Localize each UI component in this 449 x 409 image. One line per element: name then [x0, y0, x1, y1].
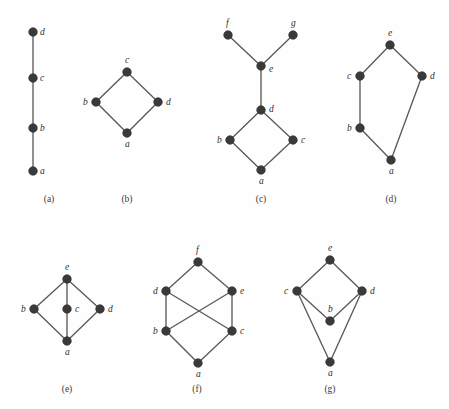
graph-node-c-a: [257, 166, 266, 175]
graph-node-a-d: [29, 28, 38, 37]
graph-edge-c-ab: [230, 140, 261, 170]
vertex-label-c-b: b: [217, 135, 222, 145]
vertex-label-d-b: b: [347, 123, 352, 133]
graph-node-a-c: [29, 74, 38, 83]
graph-node-c-c: [289, 136, 298, 145]
graph-edge-f-ac: [198, 331, 232, 363]
vertex-label-f-d: d: [153, 286, 158, 296]
graph-node-e-d: [96, 305, 105, 314]
graph-node-c-g: [289, 31, 298, 40]
edges-layer: [33, 32, 422, 363]
vertex-label-g-a: a: [328, 368, 333, 378]
graph-node-g-c: [293, 287, 302, 296]
graph-edge-c-bd: [230, 110, 261, 140]
vertex-label-a-a: a: [40, 166, 45, 176]
graph-node-f-d: [162, 287, 171, 296]
graph-edge-g-bd: [330, 291, 362, 321]
graph-node-c-d: [257, 106, 266, 115]
captions-layer: (a)(b)(c)(d)(e)(f)(g): [44, 194, 397, 395]
graph-edge-b-dc: [127, 72, 158, 102]
vertex-label-g-e: e: [328, 243, 332, 253]
graph-edge-f-ef: [198, 262, 232, 291]
graph-edge-d-ab: [360, 128, 391, 160]
graph-node-g-d: [358, 287, 367, 296]
vertex-label-b-a: a: [125, 139, 130, 149]
graph-node-d-a: [387, 156, 396, 165]
graph-node-d-d: [418, 72, 427, 81]
hasse-diagram-figure: dcbacbdafgedbcaecdbaebcdafdebcaecdba (a)…: [0, 0, 449, 409]
graph-node-f-c: [228, 327, 237, 336]
graph-node-b-b: [92, 98, 101, 107]
graph-edge-f-df: [166, 262, 198, 291]
vertex-label-c-e: e: [269, 64, 273, 74]
vertex-label-d-c: c: [347, 71, 352, 81]
panel-caption-a: (a): [44, 194, 55, 205]
vertex-label-b-b: b: [83, 97, 88, 107]
graph-edge-d-de: [390, 45, 422, 76]
vertex-label-a-c: c: [40, 73, 45, 83]
graph-node-b-a: [123, 129, 132, 138]
vertex-label-d-a: a: [389, 166, 394, 176]
graph-node-d-e: [386, 41, 395, 50]
vertex-label-g-b: b: [328, 304, 333, 314]
vertex-label-c-a: a: [259, 176, 264, 186]
vertex-label-f-f: f: [196, 245, 200, 255]
graph-edge-e-ab: [34, 309, 67, 341]
vertex-label-e-b: b: [21, 304, 26, 314]
panel-caption-e: (e): [62, 384, 73, 395]
vertex-label-e-a: a: [65, 347, 70, 357]
graph-node-f-f: [194, 258, 203, 267]
graph-edge-g-bc: [297, 291, 330, 321]
graph-edge-e-be: [34, 279, 67, 309]
vertex-label-b-c: c: [125, 55, 130, 65]
graph-edge-g-ce: [297, 260, 330, 291]
graph-edge-d-ce: [360, 45, 390, 76]
vertex-label-c-d: d: [269, 104, 274, 114]
vertex-label-a-d: d: [40, 27, 45, 37]
graph-node-g-e: [326, 256, 335, 265]
graph-edge-e-ad: [67, 309, 100, 341]
graph-node-f-e: [228, 287, 237, 296]
graph-node-e-e: [63, 275, 72, 284]
vertex-label-e-d: d: [108, 304, 113, 314]
graph-node-e-a: [63, 337, 72, 346]
graph-edge-b-bc: [96, 72, 127, 102]
panel-caption-b: (b): [121, 194, 132, 205]
graph-edge-g-ad: [330, 291, 362, 362]
graph-edge-d-ad: [391, 76, 422, 160]
graph-edge-g-ac: [297, 291, 330, 362]
graph-node-c-e: [257, 62, 266, 71]
graph-edge-b-ad: [127, 102, 158, 133]
graph-node-d-b: [356, 124, 365, 133]
graph-edge-g-de: [330, 260, 362, 291]
vertex-label-g-c: c: [284, 286, 289, 296]
nodes-layer: [29, 28, 427, 368]
panel-caption-d: (d): [385, 194, 396, 205]
vertex-label-f-b: b: [153, 326, 158, 336]
vertex-label-g-d: d: [370, 286, 375, 296]
vertex-label-d-e: e: [388, 28, 392, 38]
graph-node-a-b: [29, 124, 38, 133]
graph-node-e-c: [63, 305, 72, 314]
graph-node-a-a: [29, 167, 38, 176]
vertex-label-b-d: d: [166, 97, 171, 107]
graph-node-d-c: [356, 72, 365, 81]
graph-node-g-a: [326, 358, 335, 367]
graph-node-b-d: [154, 98, 163, 107]
vertex-label-e-e: e: [65, 262, 69, 272]
graph-edge-c-eg: [261, 35, 293, 66]
panel-caption-f: (f): [192, 384, 202, 395]
graph-node-g-b: [326, 317, 335, 326]
graph-node-e-b: [30, 305, 39, 314]
graph-edge-c-ac: [261, 140, 293, 170]
vertex-label-c-g: g: [291, 18, 296, 28]
graph-node-c-b: [226, 136, 235, 145]
graph-node-f-a: [194, 359, 203, 368]
graph-node-b-c: [123, 68, 132, 77]
panel-caption-g: (g): [324, 384, 335, 395]
vertex-label-e-c: c: [75, 304, 80, 314]
graph-edge-c-ef: [228, 35, 261, 66]
graph-edge-e-de: [67, 279, 100, 309]
graph-edge-f-ab: [166, 331, 198, 363]
vertex-label-f-a: a: [196, 369, 201, 379]
